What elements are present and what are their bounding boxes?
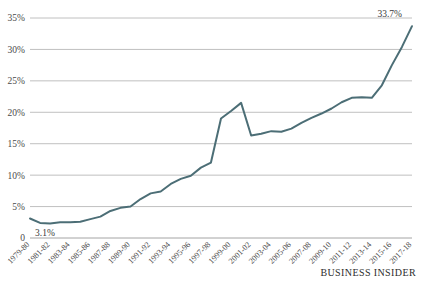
- y-axis-labels-group: 05%10%15%20%25%30%35%: [8, 13, 26, 243]
- x-axis-tick-label: 2017-18: [388, 240, 414, 266]
- y-axis-tick-label: 5%: [12, 202, 25, 212]
- data-point-label: 3.1%: [35, 228, 55, 238]
- y-axis-tick-label: 10%: [8, 171, 26, 181]
- data-series-group: [30, 26, 412, 223]
- x-axis-labels-group: 1979-801981-821983-841985-861987-881989-…: [6, 240, 414, 266]
- y-axis-tick-label: 15%: [8, 139, 26, 149]
- y-axis-tick-label: 25%: [8, 76, 26, 86]
- y-axis-tick-label: 30%: [8, 45, 26, 55]
- y-axis-tick-label: 35%: [8, 13, 26, 23]
- y-axis-tick-label: 20%: [8, 108, 26, 118]
- line-chart: 05%10%15%20%25%30%35% 1979-801981-821983…: [0, 0, 426, 289]
- gridlines-group: [30, 18, 412, 238]
- data-point-label: 33.7%: [377, 9, 402, 19]
- data-line-path: [30, 26, 412, 223]
- chart-container: 05%10%15%20%25%30%35% 1979-801981-821983…: [0, 0, 426, 289]
- business-insider-branding: BUSINESS INSIDER: [320, 267, 416, 278]
- annotations-group: 3.1%33.7%: [35, 9, 402, 238]
